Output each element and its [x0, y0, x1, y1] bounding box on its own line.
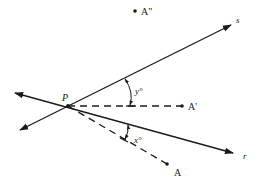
- point-a-label: A: [174, 167, 182, 178]
- line-s-label: s: [236, 15, 240, 25]
- point-a: [165, 162, 169, 166]
- line-r: [15, 93, 233, 153]
- y-angle-label: y°: [134, 86, 143, 96]
- line-r-label: r: [243, 151, 247, 161]
- reflection-diagram: s r y° x° P A' A A": [0, 0, 259, 185]
- point-a-double-prime-label: A": [141, 6, 152, 17]
- x-angle-arc: [125, 125, 128, 139]
- point-a-prime-label: A': [188, 101, 197, 112]
- segment-p-a: [68, 106, 167, 164]
- line-s: [20, 25, 231, 130]
- point-a-prime: [180, 104, 184, 108]
- point-p: [66, 104, 70, 108]
- point-p-label: P: [61, 92, 68, 103]
- point-a-double-prime: [133, 9, 137, 13]
- x-angle-label: x°: [133, 135, 142, 145]
- y-angle-arc: [125, 79, 131, 105]
